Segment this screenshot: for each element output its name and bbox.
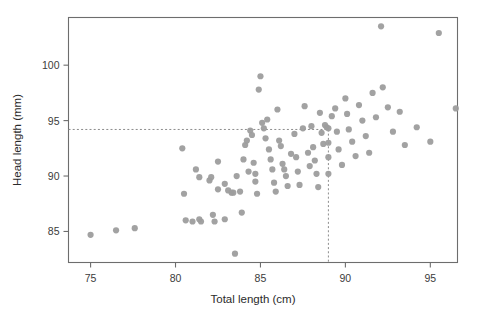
data-point xyxy=(352,153,358,159)
data-point xyxy=(274,106,280,112)
data-point xyxy=(291,131,297,137)
data-point xyxy=(315,184,321,190)
data-point xyxy=(281,166,287,172)
data-point xyxy=(356,102,362,108)
data-point xyxy=(288,151,294,157)
data-point xyxy=(210,212,216,218)
data-point xyxy=(334,129,340,135)
data-point xyxy=(239,210,245,216)
data-point xyxy=(380,84,386,90)
x-axis-ticks: 7580859095 xyxy=(85,263,437,284)
data-point xyxy=(245,168,251,174)
data-point xyxy=(390,129,396,135)
data-point xyxy=(215,159,221,165)
data-point xyxy=(342,95,348,101)
data-point xyxy=(232,251,238,257)
data-point xyxy=(237,188,243,194)
scatter-plot-figure: 7580859095 859095100 Total length (cm) H… xyxy=(0,0,480,320)
x-tick-label: 85 xyxy=(255,272,267,284)
x-axis-title: Total length (cm) xyxy=(210,293,295,305)
data-point xyxy=(271,180,277,186)
data-point xyxy=(312,157,318,163)
data-point xyxy=(261,125,267,131)
data-point xyxy=(132,225,138,231)
data-point xyxy=(349,139,355,145)
y-tick-label: 85 xyxy=(48,225,60,237)
y-tick-label: 90 xyxy=(48,170,60,182)
data-point xyxy=(295,168,301,174)
data-point xyxy=(397,109,403,115)
data-point xyxy=(325,154,331,160)
data-point xyxy=(256,86,262,92)
data-point xyxy=(317,110,323,116)
reference-guides xyxy=(69,129,329,262)
data-point xyxy=(222,216,228,222)
data-point xyxy=(319,130,325,136)
data-point xyxy=(249,132,255,138)
data-point xyxy=(453,105,459,111)
data-point xyxy=(325,125,331,131)
data-point xyxy=(179,145,185,151)
data-point xyxy=(269,166,275,172)
x-tick-label: 90 xyxy=(340,272,352,284)
plot-canvas: 7580859095 859095100 Total length (cm) H… xyxy=(0,0,480,320)
data-point xyxy=(230,190,236,196)
data-point xyxy=(285,183,291,189)
data-point xyxy=(276,137,282,143)
y-axis-title: Head length (mm) xyxy=(11,94,23,186)
data-point xyxy=(254,191,260,197)
data-point xyxy=(222,181,228,187)
data-point xyxy=(208,174,214,180)
y-tick-label: 100 xyxy=(42,59,60,71)
data-point xyxy=(332,105,338,111)
data-point xyxy=(414,124,420,130)
data-point xyxy=(363,133,369,139)
data-point xyxy=(262,135,268,141)
data-point xyxy=(279,161,285,167)
data-point xyxy=(325,140,331,146)
data-point xyxy=(189,218,195,224)
data-point xyxy=(252,178,258,184)
data-point xyxy=(325,171,331,177)
data-point xyxy=(329,113,335,119)
data-point xyxy=(259,120,265,126)
data-point xyxy=(402,142,408,148)
y-tick-label: 95 xyxy=(48,115,60,127)
x-tick-label: 95 xyxy=(424,272,436,284)
data-point xyxy=(366,150,372,156)
data-point xyxy=(300,125,306,131)
data-point xyxy=(310,144,316,150)
data-point xyxy=(252,171,258,177)
data-point xyxy=(359,117,365,123)
data-point xyxy=(307,163,313,169)
data-point xyxy=(320,141,326,147)
data-point xyxy=(266,146,272,152)
data-point xyxy=(198,218,204,224)
data-point xyxy=(302,103,308,109)
x-tick-label: 80 xyxy=(170,272,182,284)
data-point xyxy=(335,146,341,152)
data-point xyxy=(436,30,442,36)
data-point xyxy=(87,232,93,238)
data-point xyxy=(339,162,345,168)
y-axis-ticks: 859095100 xyxy=(42,59,69,237)
data-point xyxy=(346,126,352,132)
data-point xyxy=(240,156,246,162)
data-points xyxy=(87,23,458,256)
data-point xyxy=(385,104,391,110)
data-point xyxy=(293,154,299,160)
data-point xyxy=(257,73,263,79)
data-point xyxy=(373,114,379,120)
data-point xyxy=(183,217,189,223)
data-point xyxy=(113,227,119,233)
data-point xyxy=(369,90,375,96)
data-point xyxy=(344,111,350,117)
data-point xyxy=(234,173,240,179)
data-point xyxy=(251,160,257,166)
data-point xyxy=(196,174,202,180)
data-point xyxy=(296,182,302,188)
data-point xyxy=(283,173,289,179)
data-point xyxy=(268,156,274,162)
data-point xyxy=(211,218,217,224)
data-point xyxy=(308,123,314,129)
